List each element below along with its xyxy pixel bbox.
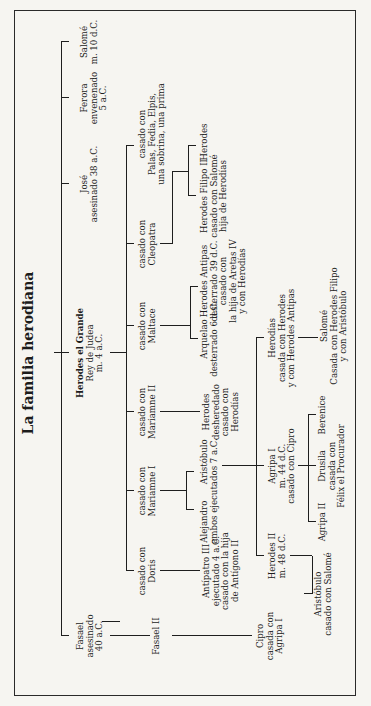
connector bbox=[248, 465, 264, 466]
connector bbox=[126, 243, 134, 244]
node-wife-maltace: casado conMaltace bbox=[138, 302, 157, 350]
connector bbox=[188, 195, 196, 196]
diagram-title: La familia herodiana bbox=[20, 272, 36, 435]
mariamne-children-bracket bbox=[186, 472, 187, 510]
node-fasael-ii: Fasael II bbox=[152, 617, 162, 654]
connector bbox=[290, 555, 312, 556]
node-herodes-filipo-ii: Herodes Filipo IIcasado con Saloméhija d… bbox=[200, 154, 229, 237]
node-herodes-son: Herodes bbox=[200, 124, 210, 161]
connector bbox=[126, 325, 134, 326]
node-fasael: Fasaelasesinado40 a.C. bbox=[76, 614, 105, 657]
node-alejandro-aristobulo: Alejandro Aristóbuloambos ejecutados 7 a… bbox=[200, 438, 219, 544]
connector bbox=[160, 490, 178, 491]
connector bbox=[186, 471, 194, 472]
connector bbox=[160, 411, 200, 412]
connector bbox=[298, 337, 318, 338]
maltace-children-bracket bbox=[190, 287, 191, 339]
connector bbox=[126, 490, 134, 491]
node-wife-mariamne-i: casado conMariamne I bbox=[138, 466, 157, 517]
connector bbox=[172, 635, 252, 636]
connector bbox=[61, 183, 69, 184]
node-herodes-el-grande: Herodes el GrandeRey de Judeam. 4 a.C. bbox=[76, 308, 105, 398]
connector bbox=[126, 411, 134, 412]
node-salome-hija: SaloméCasada con Herodes Filipoy con Ari… bbox=[320, 267, 349, 384]
node-herodias: Herodíascasada con Herodesy con Herodes … bbox=[268, 289, 297, 387]
node-cipro: Ciprocasada conAgripa I bbox=[256, 612, 285, 660]
node-aristobulo-nieto: Aristóbulocasado con Salomé bbox=[314, 552, 333, 635]
family-tree-diagram: La familia herodiana Fasaelasesinado40 a… bbox=[0, 0, 371, 706]
connector bbox=[256, 337, 264, 338]
connector bbox=[308, 465, 316, 466]
connector bbox=[308, 521, 316, 522]
connector bbox=[304, 593, 312, 594]
connector bbox=[190, 286, 198, 287]
connector bbox=[110, 352, 126, 353]
cleopatra-children-bracket bbox=[188, 146, 189, 196]
node-herodes-desheredado: Herodesdesheredadocasado conHerodías bbox=[202, 384, 240, 440]
aristobulo-children-bracket bbox=[256, 338, 257, 556]
node-drusila: Drusilacasada conFélix el Procurador bbox=[318, 424, 347, 508]
node-agripa-ii: Agripa II bbox=[318, 503, 328, 542]
connector bbox=[256, 555, 264, 556]
connector bbox=[110, 635, 150, 636]
connector bbox=[61, 635, 69, 636]
node-berenice: Berenice bbox=[318, 396, 328, 435]
node-wife-mariamne-ii: casado conMariamne II bbox=[138, 385, 157, 439]
agripa-children-bracket bbox=[308, 415, 309, 522]
connector bbox=[172, 171, 188, 172]
node-herodes-ii: Herodes IIm. 48 d.C. bbox=[268, 533, 287, 579]
node-jose: Joséasesinado 38 a.C. bbox=[80, 146, 99, 222]
node-agripa-i: Agripa Im. 44 d.C.casado con Cipro bbox=[268, 428, 297, 503]
connector bbox=[172, 172, 173, 244]
connector bbox=[61, 97, 69, 98]
gen1-bracket-line bbox=[61, 42, 62, 636]
connector bbox=[308, 414, 316, 415]
connector bbox=[186, 509, 194, 510]
wives-bracket-line bbox=[126, 146, 127, 571]
node-herodes-antipas: Herodes Antipasdesterrado 39 d.C.casado … bbox=[200, 239, 248, 322]
connector bbox=[160, 243, 172, 244]
connector bbox=[126, 570, 134, 571]
connector bbox=[178, 490, 186, 491]
connector bbox=[160, 570, 200, 571]
node-wife-doris: casado conDoris bbox=[138, 547, 157, 595]
connector bbox=[188, 145, 196, 146]
node-salome-hermana: Salomém. 10 d.C. bbox=[80, 20, 99, 65]
connector bbox=[160, 325, 190, 326]
connector bbox=[61, 41, 69, 42]
connector bbox=[190, 338, 198, 339]
connector bbox=[298, 465, 308, 466]
connector bbox=[54, 352, 69, 353]
node-wife-others: casado conPalas, Fedia, Elpis,una sobrin… bbox=[138, 83, 167, 185]
node-wife-cleopatra: casado conCleopatra bbox=[138, 220, 157, 268]
node-ferora: Feroraenvenenado5 a.C. bbox=[80, 72, 109, 125]
connector bbox=[126, 145, 134, 146]
connector bbox=[102, 621, 120, 622]
